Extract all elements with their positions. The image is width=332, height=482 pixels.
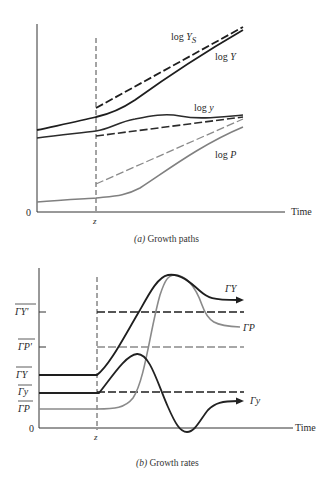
panel-a-event-label: z	[92, 216, 97, 226]
level-label-GP: ΓP	[17, 403, 30, 414]
label-log-y: log y	[194, 102, 214, 113]
y-level-GP: ΓP	[17, 401, 33, 414]
growth-figure: 0 Time z log YS log Y log y log P (a) Gr…	[0, 0, 332, 482]
curve-gamma-P	[39, 275, 240, 409]
label-log-YS: log YS	[171, 31, 197, 45]
curve-log-y	[37, 115, 243, 138]
label-gamma-y: Γy	[249, 395, 261, 406]
y-level-GY: ΓY	[15, 367, 32, 380]
level-label-GY: ΓY	[15, 369, 29, 380]
label-log-Y: log Y	[215, 51, 237, 62]
panel-b-origin-label: 0	[29, 423, 34, 434]
y-level-GYp: ΓY'	[14, 304, 46, 317]
level-label-GPp: ΓP'	[17, 341, 33, 352]
panel-b-event-label: z	[93, 432, 98, 442]
y-level-Gy: Γy	[17, 385, 32, 397]
curve-log-YS	[96, 27, 243, 108]
panel-a-x-axis-label: Time	[291, 206, 312, 217]
panel-a-origin-label: 0	[26, 207, 31, 218]
panel-b-caption: (b) Growth rates	[136, 458, 199, 469]
panel-a-growth-paths: 0 Time z log YS log Y log y log P (a) Gr…	[26, 24, 312, 245]
label-log-P: log P	[215, 149, 236, 160]
panel-b-growth-rates: 0 Time z ΓY' ΓP' ΓY Γy ΓP	[14, 268, 316, 469]
panel-b-x-axis-label: Time	[295, 422, 316, 433]
curve-log-y-trend	[96, 117, 243, 136]
curve-gamma-Y	[39, 275, 238, 375]
arrow-gamma-y	[236, 398, 244, 405]
y-level-GPp: ΓP'	[17, 339, 46, 352]
arrow-gamma-Y	[236, 297, 244, 304]
level-label-GYp: ΓY'	[14, 306, 29, 317]
label-gamma-Y: ΓY	[224, 283, 238, 294]
label-gamma-P: ΓP	[242, 322, 255, 333]
curve-gamma-y	[39, 354, 238, 432]
panel-a-caption: (a) Growth paths	[134, 234, 199, 245]
level-label-Gy: Γy	[17, 386, 29, 397]
